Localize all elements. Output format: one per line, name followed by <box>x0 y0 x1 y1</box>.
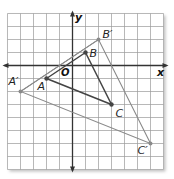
point-C′ <box>149 142 153 146</box>
label-C: C <box>116 107 124 120</box>
origin-label: O <box>61 67 70 78</box>
label-A′: A′ <box>8 75 20 88</box>
x-axis-label: x <box>156 66 165 79</box>
label-A: A <box>37 80 46 93</box>
point-C <box>109 102 113 106</box>
point-A′ <box>19 90 23 94</box>
dilation-diagram: ABCA′B′C′ x y O <box>0 0 174 179</box>
label-B′: B′ <box>103 28 114 41</box>
y-axis-label: y <box>75 11 83 24</box>
label-C′: C′ <box>138 144 149 157</box>
coordinate-plane-figure: ABCA′B′C′ x y O <box>0 0 174 179</box>
point-B <box>83 50 87 54</box>
point-B′ <box>97 38 101 42</box>
label-B: B <box>90 47 98 60</box>
x-axis-arrow-left-icon <box>3 63 9 68</box>
